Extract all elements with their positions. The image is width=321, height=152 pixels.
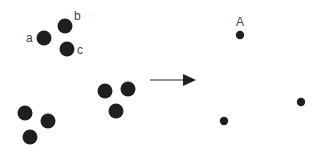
label-A: A [236, 15, 244, 29]
arrow-head-icon [183, 74, 196, 86]
merged-point [297, 98, 305, 106]
cluster-point [41, 114, 56, 129]
middle-cluster [98, 82, 136, 119]
cluster-merge-diagram: a b c A [0, 0, 321, 152]
point-b [58, 19, 73, 34]
bottom-left-cluster [18, 106, 56, 145]
point-A [236, 31, 244, 39]
merged-point [220, 117, 228, 125]
cluster-point [121, 82, 136, 97]
labeled-cluster: a b c [26, 9, 83, 57]
cluster-point [98, 84, 113, 99]
label-c: c [77, 43, 83, 57]
merged-points: A [220, 15, 305, 125]
transform-arrow [150, 74, 196, 86]
cluster-point [18, 106, 33, 121]
label-b: b [74, 9, 81, 23]
point-a [37, 31, 52, 46]
point-c [60, 42, 75, 57]
label-a: a [26, 31, 33, 45]
cluster-point [23, 130, 38, 145]
cluster-point [109, 104, 124, 119]
